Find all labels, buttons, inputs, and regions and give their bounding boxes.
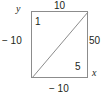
window-value-right: 50 bbox=[89, 35, 100, 46]
window-value-top: 10 bbox=[54, 0, 65, 11]
y-axis-label: y bbox=[16, 3, 20, 14]
window-value-bottom: − 10 bbox=[49, 83, 69, 94]
y-scale-mark: 1 bbox=[35, 16, 41, 27]
viewing-window-figure: 10 − 10 50 − 10 1 5 y x bbox=[0, 0, 110, 100]
x-axis-label: x bbox=[92, 67, 96, 78]
window-value-left: − 10 bbox=[2, 35, 22, 46]
x-scale-mark: 5 bbox=[75, 61, 81, 72]
